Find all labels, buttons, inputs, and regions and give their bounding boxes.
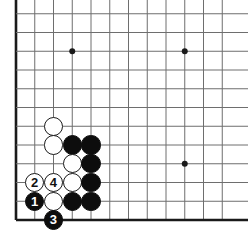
go-stone-white-move-2: 2 <box>25 173 44 192</box>
go-stone-white <box>44 192 63 211</box>
move-number-label: 2 <box>26 174 43 191</box>
move-number-label: 1 <box>26 193 43 210</box>
go-stone-white-move-4: 4 <box>44 173 63 192</box>
go-stone-black <box>63 135 82 154</box>
star-point-center-right <box>182 161 188 167</box>
go-stone-black <box>63 192 82 211</box>
move-number-label: 3 <box>45 211 62 228</box>
go-stone-white <box>63 173 82 192</box>
go-stone-black-move-3: 3 <box>44 210 63 229</box>
go-stone-black-move-1: 1 <box>25 192 44 211</box>
go-stone-white <box>44 135 63 154</box>
go-stone-black <box>81 173 100 192</box>
go-stone-black <box>81 154 100 173</box>
star-point-upper-left <box>69 48 75 54</box>
star-point-upper-right <box>182 48 188 54</box>
go-stone-white <box>63 154 82 173</box>
go-stone-black <box>81 135 100 154</box>
go-board-diagram: 2413 <box>0 0 248 243</box>
move-number-label: 4 <box>45 174 62 191</box>
go-stone-black <box>81 192 100 211</box>
go-stone-white <box>44 117 63 136</box>
